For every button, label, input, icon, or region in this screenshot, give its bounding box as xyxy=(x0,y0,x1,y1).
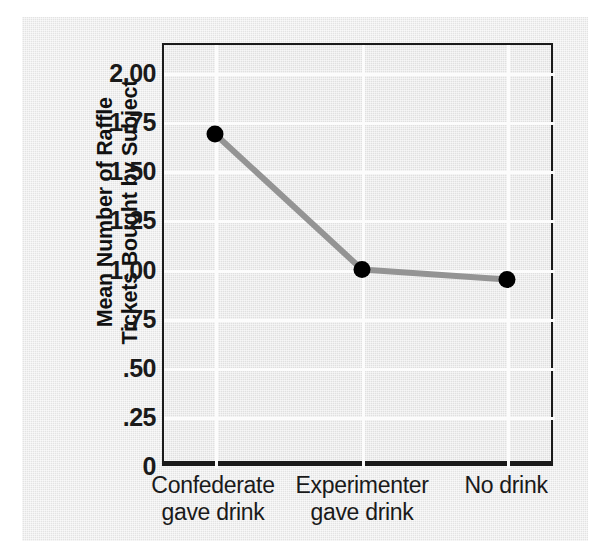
x-tick-label-no-drink: No drink xyxy=(418,472,594,499)
y-tick-label: 2.00 xyxy=(60,61,156,86)
plot-inner xyxy=(164,45,555,468)
y-tick-label: 1.75 xyxy=(60,110,156,135)
plot-area xyxy=(162,43,553,466)
series-line xyxy=(215,134,507,279)
y-tick-label: 1.50 xyxy=(60,159,156,184)
x-tick-line-1: No drink xyxy=(418,472,594,499)
data-point-marker xyxy=(354,261,371,278)
data-series xyxy=(164,45,555,468)
y-tick-label: .50 xyxy=(60,356,156,381)
y-tick-label: .75 xyxy=(60,307,156,332)
x-tick-line-2: gave drink xyxy=(268,499,456,526)
x-axis-tick-labels: Confederate gave drink Experimenter gave… xyxy=(162,472,553,532)
y-tick-label: .25 xyxy=(60,405,156,430)
y-tick-label: 1.25 xyxy=(60,208,156,233)
data-point-marker xyxy=(499,271,516,288)
series-markers xyxy=(207,126,516,288)
y-tick-label: 1.00 xyxy=(60,258,156,283)
y-axis-tick-labels: 2.00 1.75 1.50 1.25 1.00 .75 .50 .25 0 xyxy=(56,43,156,466)
data-point-marker xyxy=(207,126,224,143)
chart-screenshot: Mean Number of Raffle Tickets Bought by … xyxy=(0,0,609,559)
